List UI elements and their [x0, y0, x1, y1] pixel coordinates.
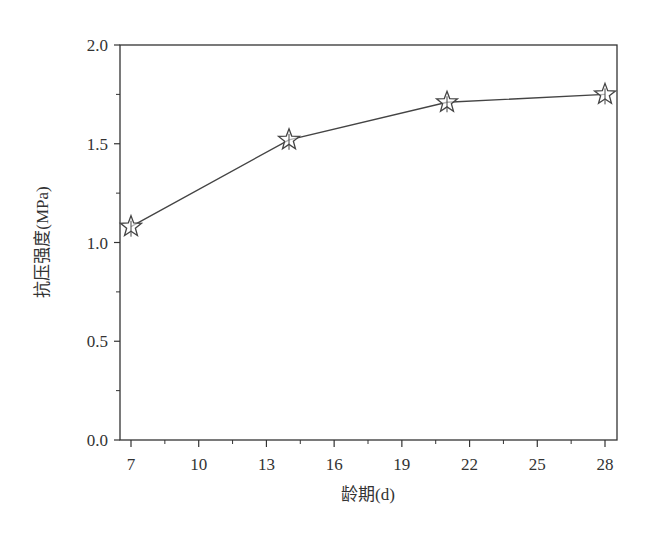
- x-axis: 710131619222528: [127, 440, 614, 474]
- x-tick-label: 10: [190, 455, 207, 474]
- x-tick-label: 16: [326, 455, 343, 474]
- plot-frame: [120, 45, 617, 440]
- y-axis: 0.00.51.01.52.0: [87, 36, 120, 450]
- x-tick-label: 22: [461, 455, 478, 474]
- x-tick-label: 7: [127, 455, 136, 474]
- data-series: [121, 83, 616, 236]
- y-axis-title: 抗压强度(MPa): [33, 186, 52, 297]
- plot-border: [120, 45, 617, 440]
- x-tick-label: 25: [529, 455, 546, 474]
- line-chart: 0.00.51.01.52.0 710131619222528 龄期(d) 抗压…: [0, 0, 656, 546]
- x-tick-label: 13: [258, 455, 275, 474]
- x-tick-label: 28: [597, 455, 614, 474]
- y-tick-label: 0.5: [87, 332, 108, 351]
- series-line: [131, 94, 605, 226]
- y-tick-label: 1.5: [87, 135, 108, 154]
- y-tick-label: 0.0: [87, 431, 108, 450]
- x-tick-label: 19: [393, 455, 410, 474]
- y-tick-label: 1.0: [87, 234, 108, 253]
- x-axis-title: 龄期(d): [341, 485, 395, 504]
- y-tick-label: 2.0: [87, 36, 108, 55]
